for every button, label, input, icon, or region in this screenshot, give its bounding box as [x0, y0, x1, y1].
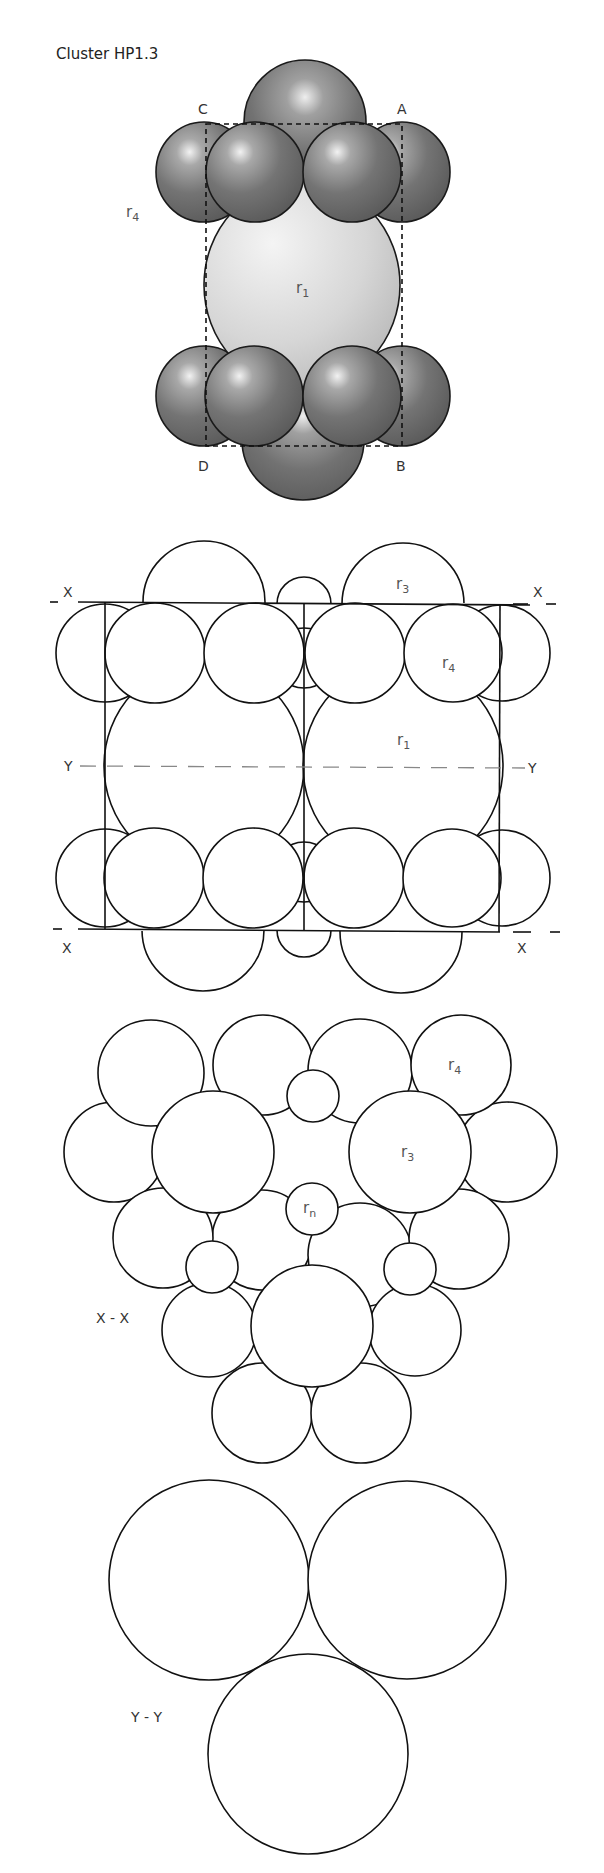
section-yy-view: Y - Y: [109, 1480, 506, 1854]
corner-label-a: A: [397, 101, 407, 117]
circle-r3-bottom: [251, 1265, 373, 1387]
section-caption-yy: Y - Y: [130, 1709, 163, 1725]
section-mark-x-bottom-left: X: [62, 940, 72, 956]
sphere-top-right-front: [303, 122, 401, 222]
sphere-bottom-left-front: [205, 346, 303, 446]
section-mark-y-right: Y: [527, 760, 537, 776]
circle-r4-bottom-1: [104, 828, 204, 928]
perspective-view: C A D B r4 r1: [126, 60, 450, 500]
radius-label-r4: r4: [126, 203, 139, 224]
figure-title: Cluster HP1.3: [56, 45, 158, 63]
circle-r4-bottom-2: [203, 828, 303, 928]
circle-r4-far-right: [457, 1102, 557, 1202]
corner-label-b: B: [396, 458, 406, 474]
cluster-diagram-canvas: Cluster HP1.3 C A D B r4 r1: [0, 0, 604, 1873]
circle-r4-top-1: [105, 603, 205, 703]
elevation-view: X X Y Y X X r3 r4 r1: [40, 541, 570, 993]
corner-label-d: D: [198, 458, 209, 474]
section-xx-view: r4 r3 rn X - X: [64, 1015, 557, 1463]
circle-r1-bottom: [208, 1654, 408, 1854]
section-mark-x-bottom-right: X: [517, 940, 527, 956]
section-caption-xx: X - X: [96, 1310, 130, 1326]
circle-r1-left: [109, 1480, 309, 1680]
circle-r4-top-3: [305, 603, 405, 703]
circle-r1-right: [308, 1481, 506, 1679]
circle-rn-top: [287, 1070, 339, 1122]
circle-r3-left: [152, 1091, 274, 1213]
circle-r4-second-right: [369, 1284, 461, 1376]
circle-rn-right: [384, 1243, 436, 1295]
circle-r4-second-left: [162, 1283, 256, 1377]
section-mark-y-left: Y: [63, 758, 73, 774]
circle-r4-bottom-3: [304, 828, 404, 928]
sphere-top-left-front: [206, 122, 304, 222]
sphere-bottom-right-front: [303, 346, 401, 446]
circle-r4-bottom-4: [403, 829, 501, 927]
circle-r4-top-2: [204, 603, 304, 703]
circle-rn-left: [186, 1241, 238, 1293]
section-mark-x-top-right: X: [533, 584, 543, 600]
circle-r4-top-4: [404, 604, 502, 702]
section-mark-x-top-left: X: [63, 584, 73, 600]
corner-label-c: C: [198, 101, 208, 117]
